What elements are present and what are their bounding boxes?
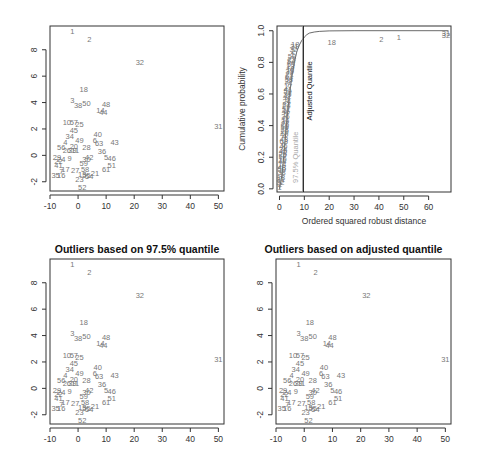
x-tick-label: 0 bbox=[76, 434, 81, 444]
y-tick-label: -2 bbox=[255, 411, 265, 419]
point-label: 44 bbox=[99, 108, 107, 117]
point-label: 18 bbox=[80, 85, 88, 94]
y-tick-label: 0.2 bbox=[256, 151, 266, 163]
y-tick-label: 4 bbox=[29, 100, 39, 105]
outlier-point-label: 32 bbox=[442, 31, 450, 40]
x-tick-label: 60 bbox=[424, 202, 434, 212]
point-label: 1 bbox=[70, 260, 74, 269]
point-label: 11 bbox=[71, 146, 79, 155]
panel-bottom-right-scatter: -1001020304050-202468Outliers based on a… bbox=[255, 243, 451, 444]
x-tick-label: 10 bbox=[101, 434, 111, 444]
y-tick-label: 6 bbox=[255, 307, 265, 312]
point-label: 2 bbox=[87, 35, 91, 44]
point-label: 52 bbox=[78, 183, 86, 192]
y-tick-label: 4 bbox=[29, 333, 39, 338]
y-tick-label: 2 bbox=[29, 359, 39, 364]
y-tick-label: 2 bbox=[255, 359, 265, 364]
point-label: 44 bbox=[325, 341, 333, 350]
point-label: 54 bbox=[85, 172, 93, 181]
point-label: 38 bbox=[300, 334, 308, 343]
x-tick-label: 10 bbox=[328, 434, 338, 444]
y-tick-label: 0.6 bbox=[256, 88, 266, 100]
point-label: 16 bbox=[283, 404, 291, 413]
point-label: 1 bbox=[296, 260, 300, 269]
panel-top-right-cdf: 01020304050600.00.20.40.60.81.0Ordered s… bbox=[237, 25, 451, 226]
point-label: 54 bbox=[85, 405, 93, 414]
x-tick-label: 40 bbox=[186, 201, 196, 211]
x-tick-label: 0 bbox=[277, 202, 282, 212]
point-label: 52 bbox=[78, 416, 86, 425]
point-label: 50 bbox=[309, 332, 317, 341]
x-tick-label: 20 bbox=[129, 201, 139, 211]
x-tick-label: 30 bbox=[349, 202, 359, 212]
point-label: 9 bbox=[68, 154, 72, 163]
y-tick-label: 0 bbox=[255, 386, 265, 391]
x-tick-label: 40 bbox=[186, 434, 196, 444]
point-label: 38 bbox=[74, 101, 82, 110]
point-label: 16 bbox=[57, 171, 65, 180]
x-tick-label: -10 bbox=[270, 434, 283, 444]
point-label: 31 bbox=[441, 355, 449, 364]
point-label: 32 bbox=[362, 291, 370, 300]
y-tick-label: 0.8 bbox=[256, 56, 266, 68]
outlier-point-label: 1 bbox=[397, 33, 401, 42]
y-tick-label: -2 bbox=[29, 178, 39, 186]
y-axis-label: Cumulative probability bbox=[237, 66, 247, 150]
x-tick-label: 50 bbox=[399, 202, 409, 212]
point-label: 43 bbox=[337, 371, 345, 380]
panel-title: Outliers based on adjusted quantile bbox=[265, 243, 443, 255]
point-label: 61 bbox=[328, 398, 336, 407]
panel-top-left-scatter: -1001020304050-2024681232311833850481444… bbox=[29, 26, 224, 211]
point-label: 28 bbox=[82, 376, 90, 385]
y-tick-label: 0 bbox=[29, 386, 39, 391]
point-label: 11 bbox=[298, 379, 306, 388]
point-label: 28 bbox=[309, 376, 317, 385]
point-label: 2 bbox=[313, 268, 317, 277]
point-label: 38 bbox=[74, 334, 82, 343]
y-tick-label: 6 bbox=[29, 74, 39, 79]
point-label: 32 bbox=[136, 58, 144, 67]
point-label: 54 bbox=[311, 405, 319, 414]
point-label: 61 bbox=[102, 165, 110, 174]
point-label: 18 bbox=[80, 318, 88, 327]
point-label: 1 bbox=[70, 27, 74, 36]
y-tick-label: 8 bbox=[255, 280, 265, 285]
point-label: 31 bbox=[214, 122, 222, 131]
point-label: 9 bbox=[294, 387, 298, 396]
x-tick-label: 0 bbox=[76, 201, 81, 211]
point-label: 32 bbox=[136, 291, 144, 300]
x-tick-label: 20 bbox=[129, 434, 139, 444]
point-label: 52 bbox=[304, 416, 312, 425]
x-tick-label: 30 bbox=[158, 201, 168, 211]
x-tick-label: 50 bbox=[214, 434, 224, 444]
panel-title: Outliers based on 97.5% quantile bbox=[55, 243, 220, 255]
panel-bottom-left-scatter: -1001020304050-202468Outliers based on 9… bbox=[29, 243, 224, 444]
y-tick-label: 6 bbox=[29, 307, 39, 312]
x-tick-label: 40 bbox=[374, 202, 384, 212]
x-tick-label: 0 bbox=[302, 434, 307, 444]
x-tick-label: -10 bbox=[44, 434, 57, 444]
point-label: 31 bbox=[214, 355, 222, 364]
x-tick-label: 20 bbox=[356, 434, 366, 444]
y-tick-label: 4 bbox=[255, 333, 265, 338]
point-label: 50 bbox=[82, 332, 90, 341]
x-tick-label: 20 bbox=[324, 202, 334, 212]
x-tick-label: 50 bbox=[441, 434, 451, 444]
point-label: 11 bbox=[71, 379, 79, 388]
point-label: 2 bbox=[87, 268, 91, 277]
x-tick-label: 30 bbox=[384, 434, 394, 444]
point-label: 16 bbox=[57, 404, 65, 413]
y-tick-label: 2 bbox=[29, 126, 39, 131]
y-tick-label: 0.0 bbox=[256, 183, 266, 195]
adjusted-quantile-label: Adjusted Quantile bbox=[305, 61, 314, 120]
y-tick-label: 8 bbox=[29, 280, 39, 285]
x-axis-label: Ordered squared robust distance bbox=[302, 216, 427, 226]
point-label: 61 bbox=[102, 398, 110, 407]
outlier-point-label: 2 bbox=[379, 35, 383, 44]
x-tick-label: 10 bbox=[300, 202, 310, 212]
chart-figure: -1001020304050-2024681232311833850481444… bbox=[0, 0, 477, 473]
point-label: 43 bbox=[110, 138, 118, 147]
quantile-975-label: 97.5% Quantile bbox=[291, 132, 300, 183]
outlier-point-label: 18 bbox=[328, 38, 336, 47]
y-tick-label: 0.4 bbox=[256, 119, 266, 131]
